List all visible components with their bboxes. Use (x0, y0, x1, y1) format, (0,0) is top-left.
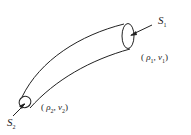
tube-upper-wall (22, 24, 124, 97)
state-s1: ( ρ1, v1) (141, 52, 168, 64)
label-s1-sub: 1 (164, 22, 167, 28)
cross-section-s1 (122, 24, 134, 49)
label-s1: S1 (158, 14, 167, 28)
state-s2: ( ρ2, v2) (41, 102, 68, 114)
label-s2: S2 (7, 116, 16, 130)
label-s2-sub: 2 (13, 124, 16, 130)
tube-lower-wall (30, 49, 130, 108)
